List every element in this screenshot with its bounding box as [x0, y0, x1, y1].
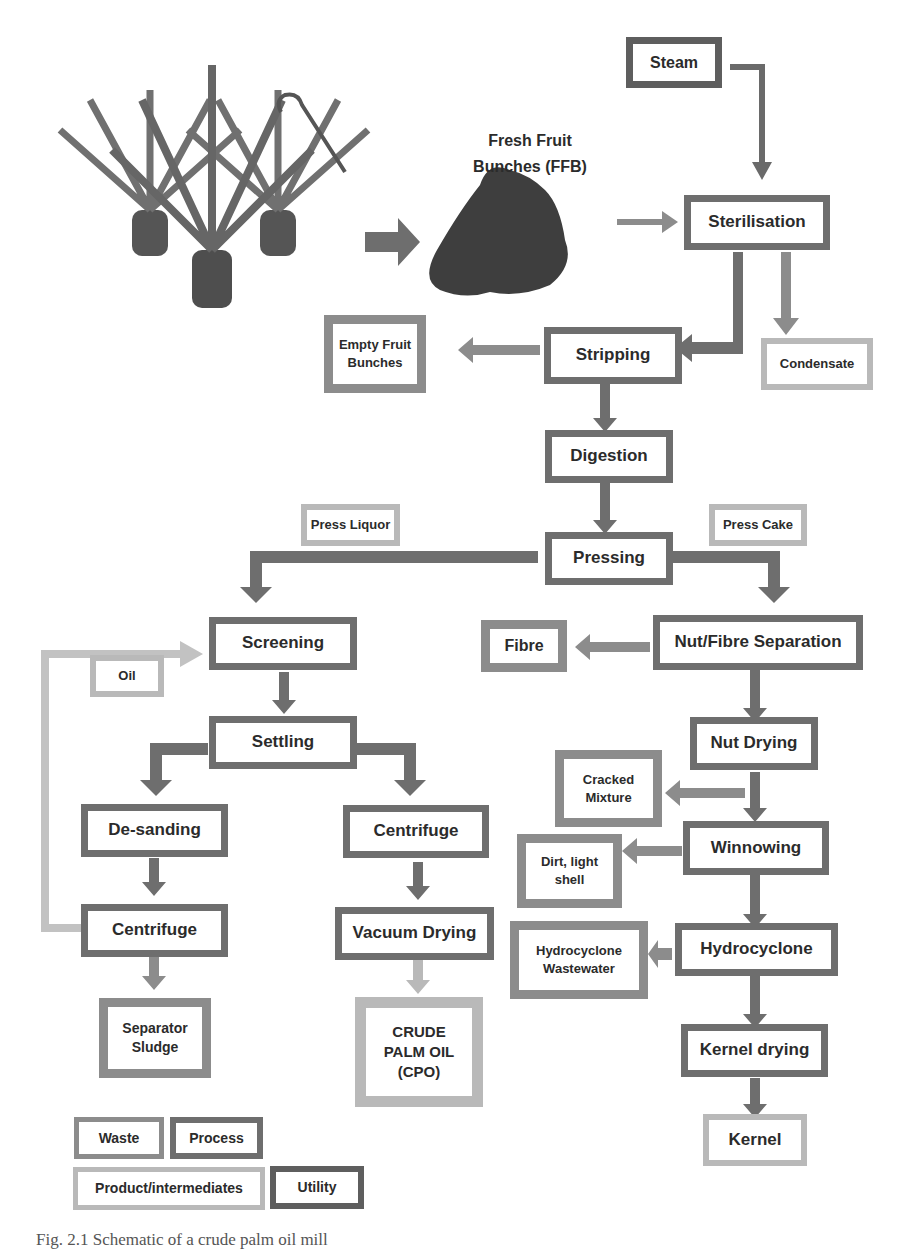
figure-caption: Fig. 2.1 Schematic of a crude palm oil m…	[36, 1230, 328, 1250]
node-label: Dirt, light shell	[535, 853, 605, 888]
node-oil[interactable]: Oil	[90, 655, 164, 697]
node-label: Screening	[242, 632, 324, 655]
node-label-line3: (CPO)	[398, 1062, 441, 1082]
node-crude-palm-oil[interactable]: CRUDE PALM OIL (CPO)	[355, 997, 483, 1107]
node-label: Steam	[650, 52, 698, 74]
node-label: Pressing	[573, 547, 645, 570]
node-label-line2: PALM OIL	[384, 1042, 455, 1062]
node-nut-drying[interactable]: Nut Drying	[690, 717, 818, 770]
legend-label: Process	[189, 1129, 243, 1148]
node-label: De-sanding	[108, 819, 201, 842]
node-label: Digestion	[570, 445, 647, 468]
node-press-liquor[interactable]: Press Liquor	[301, 504, 400, 546]
node-centrifuge-left[interactable]: Centrifuge	[81, 904, 228, 957]
node-label: Separator Sludge	[119, 1019, 191, 1057]
ffb-label: Fresh Fruit Bunches (FFB)	[455, 128, 605, 179]
node-label: Centrifuge	[374, 820, 459, 843]
node-condensate[interactable]: Condensate	[761, 338, 873, 390]
ffb-label-line2: Bunches (FFB)	[455, 154, 605, 180]
node-hydrocyclone[interactable]: Hydrocyclone	[675, 923, 838, 976]
node-vacuum-drying[interactable]: Vacuum Drying	[335, 907, 494, 960]
node-label: Press Liquor	[311, 516, 390, 534]
node-label: Cracked Mixture	[574, 771, 644, 806]
node-label: Winnowing	[711, 837, 802, 860]
node-hydrocyclone-wastewater[interactable]: Hydrocyclone Wastewater	[510, 921, 648, 999]
node-desanding[interactable]: De-sanding	[81, 804, 228, 857]
node-label: Vacuum Drying	[353, 922, 477, 945]
node-label: Sterilisation	[708, 211, 805, 234]
node-stripping[interactable]: Stripping	[544, 327, 682, 384]
ffb-label-line1: Fresh Fruit	[455, 128, 605, 154]
node-kernel-drying[interactable]: Kernel drying	[681, 1024, 828, 1077]
legend-label: Waste	[99, 1129, 140, 1148]
node-digestion[interactable]: Digestion	[545, 430, 673, 483]
legend-utility: Utility	[270, 1166, 364, 1209]
node-empty-fruit-bunches[interactable]: Empty Fruit Bunches	[324, 315, 426, 393]
node-press-cake[interactable]: Press Cake	[709, 504, 807, 546]
node-label-line1: CRUDE	[392, 1022, 445, 1042]
node-centrifuge-mid[interactable]: Centrifuge	[343, 805, 489, 858]
node-label: Nut/Fibre Separation	[674, 631, 841, 654]
node-fibre[interactable]: Fibre	[481, 620, 567, 672]
node-label: Oil	[118, 667, 135, 685]
node-label: Press Cake	[723, 516, 793, 534]
ffb-pile-illustration	[429, 167, 568, 295]
node-label: Centrifuge	[112, 919, 197, 942]
node-pressing[interactable]: Pressing	[545, 532, 673, 585]
node-kernel[interactable]: Kernel	[703, 1114, 807, 1166]
node-separator-sludge[interactable]: Separator Sludge	[99, 998, 211, 1078]
node-settling[interactable]: Settling	[209, 716, 357, 769]
node-label: Empty Fruit Bunches	[335, 336, 415, 371]
node-nut-fibre-separation[interactable]: Nut/Fibre Separation	[653, 615, 863, 670]
node-label: Kernel	[729, 1129, 782, 1152]
node-label: Stripping	[576, 344, 651, 367]
node-label: Settling	[252, 731, 314, 754]
legend-product: Product/intermediates	[73, 1167, 265, 1210]
legend-label: Utility	[298, 1178, 337, 1197]
node-sterilisation[interactable]: Sterilisation	[684, 195, 830, 250]
node-label: Kernel drying	[700, 1039, 810, 1062]
legend-label: Product/intermediates	[95, 1179, 243, 1198]
node-label: Fibre	[504, 635, 543, 657]
legend-process: Process	[170, 1117, 263, 1159]
node-winnowing[interactable]: Winnowing	[683, 821, 829, 875]
node-screening[interactable]: Screening	[209, 617, 357, 670]
node-label: Hydrocyclone Wastewater	[529, 942, 629, 977]
node-steam[interactable]: Steam	[626, 37, 722, 88]
node-label: Condensate	[780, 355, 854, 373]
node-label: Hydrocyclone	[700, 938, 812, 961]
legend-waste: Waste	[74, 1117, 164, 1159]
palm-trees-illustration	[60, 65, 368, 308]
node-cracked-mixture[interactable]: Cracked Mixture	[555, 750, 662, 827]
node-dirt-light-shell[interactable]: Dirt, light shell	[517, 834, 622, 908]
node-label: Nut Drying	[711, 732, 798, 755]
